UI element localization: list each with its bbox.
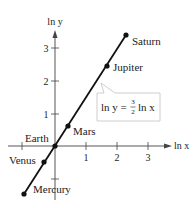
equation-callout: ln y = 3 2 ln x [97, 83, 160, 121]
point-mars [65, 123, 70, 128]
equation-numerator: 3 [131, 98, 135, 106]
label-jupiter: Jupiter [113, 61, 143, 73]
label-mars: Mars [73, 125, 96, 137]
y-axis-label: ln y [47, 16, 62, 27]
point-jupiter [104, 63, 109, 68]
label-saturn: Saturn [132, 35, 161, 47]
point-earth [52, 143, 57, 148]
label-earth: Earth [25, 132, 49, 144]
equation-rhs: ln x [138, 101, 155, 113]
point-venus [41, 159, 46, 164]
point-saturn [123, 32, 128, 37]
log-log-planet-chart: 1 2 3 ln x 1 2 3 ln y Mercury Venus Eart… [0, 0, 193, 208]
equation-lhs: ln y = [101, 101, 127, 113]
point-mercury [21, 191, 26, 196]
x-tick-label-3: 3 [146, 152, 151, 163]
y-tick-label-1: 1 [44, 109, 49, 120]
label-mercury: Mercury [33, 183, 71, 195]
equation-denominator: 2 [131, 108, 135, 116]
label-venus: Venus [9, 154, 36, 166]
y-tick-label-2: 2 [44, 76, 49, 87]
x-axis-label: ln x [174, 140, 189, 151]
x-tick-label-1: 1 [84, 152, 89, 163]
x-axis-arrow-icon [164, 144, 172, 149]
y-axis-arrow-icon [53, 30, 58, 38]
y-axis: 1 2 3 ln y [44, 16, 63, 200]
y-tick-label-3: 3 [44, 43, 49, 54]
x-tick-label-2: 2 [115, 152, 120, 163]
